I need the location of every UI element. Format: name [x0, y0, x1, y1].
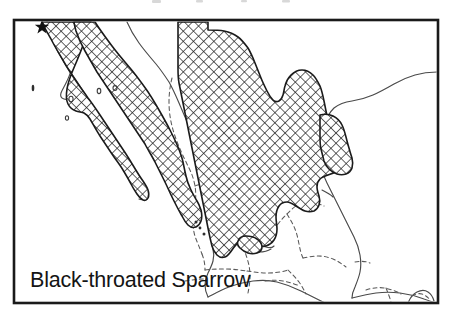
- isla-guadalupe-icon: [32, 85, 35, 91]
- species-caption: Black-throated Sparrow: [30, 268, 251, 292]
- range-map-figure: Black-throated Sparrow: [0, 0, 449, 321]
- islas-marias-icon-a: [195, 221, 198, 224]
- clipped-text-above: [152, 0, 290, 3]
- map-svg: Black-throated Sparrow: [0, 0, 449, 321]
- islas-marias-icon-c: [203, 233, 206, 236]
- islas-marias-icon-b: [199, 227, 202, 230]
